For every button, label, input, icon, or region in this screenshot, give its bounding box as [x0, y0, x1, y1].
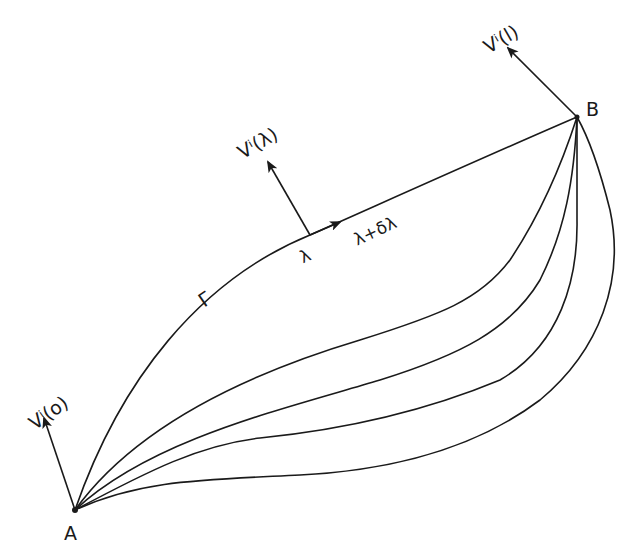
curves-diagram: A B Γ λ λ+δλ Vⁱ(o) Vⁱ(λ) Vⁱ(l) [0, 0, 623, 551]
lambda-label: λ [296, 245, 314, 267]
curve-gamma [75, 117, 577, 510]
curve-3 [75, 117, 577, 510]
tangent-arrow [310, 222, 340, 235]
point-a-label: A [64, 522, 77, 544]
curve-4 [75, 117, 577, 510]
point-b-dot [575, 115, 580, 120]
point-b-label: B [586, 98, 599, 120]
vector-v0-arrow [44, 418, 75, 510]
lambda-plus-delta-label: λ+δλ [350, 212, 399, 249]
vector-v0-label: Vⁱ(o) [24, 391, 72, 434]
vector-vlambda-arrow [268, 162, 310, 235]
gamma-label: Γ [194, 287, 216, 311]
curve-5 [75, 117, 614, 510]
point-a-dot [72, 507, 78, 513]
vector-v1-arrow [508, 48, 577, 117]
vector-vlambda-label: Vⁱ(λ) [234, 123, 282, 163]
vector-v1-label: Vⁱ(l) [479, 20, 522, 57]
curve-2 [75, 117, 577, 510]
